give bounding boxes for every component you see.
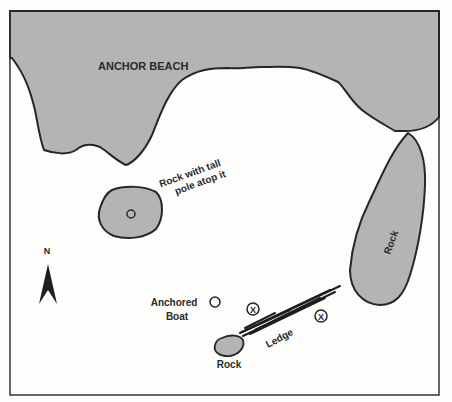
beach-label: ANCHOR BEACH — [98, 60, 189, 72]
hazard-marker-x-icon: X — [315, 310, 327, 322]
north-label: N — [44, 246, 51, 256]
boat-label-line2: Boat — [166, 311, 189, 322]
south-rock-label: Rock — [217, 359, 242, 370]
hazard-marker-x-icon: X — [247, 303, 259, 315]
pole-marker-icon — [127, 210, 135, 218]
svg-text:X: X — [250, 305, 256, 315]
boat-label-line1: Anchored — [151, 297, 198, 308]
svg-text:X: X — [318, 312, 324, 322]
nautical-map: X X N ANCHOR BEACH Rock with tall pole a… — [0, 0, 452, 402]
